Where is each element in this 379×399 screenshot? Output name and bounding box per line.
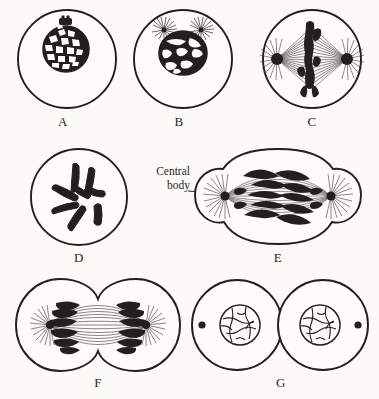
central-body-g-left [198,321,205,328]
panel-a-cell-diagram [14,5,120,113]
panel-f-cell-diagram [12,277,184,379]
centrosome-c-right [341,53,353,65]
central-body-e-right [327,192,336,201]
panel-letter-b: B [169,114,189,130]
nucleus-g-right [300,305,340,345]
mitosis-figure: A [0,0,379,399]
panel-b-cell-diagram [130,5,236,113]
central-body-annotation: Central body [128,164,190,193]
nucleus-b [159,31,207,75]
panel-letter-c: C [302,114,322,130]
central-body-e-left [221,192,230,201]
panel-letter-g: G [271,375,291,391]
panel-e-cell-diagram [183,145,373,255]
central-body-annotation-line2: body [128,178,190,192]
nucleus-g-left [220,305,260,345]
nucleus-a [43,25,89,72]
panel-c-cell-diagram [256,5,368,113]
panel-letter-e: E [268,250,288,266]
centrosome-c-left [271,53,283,65]
panel-letter-d: D [69,250,89,266]
panel-g-cell-diagram [190,277,370,379]
cell-membrane-d [31,149,127,245]
panel-letter-f: F [88,375,108,391]
central-body-annotation-line1: Central [128,164,190,178]
central-body-g-right [354,321,361,328]
panel-letter-a: A [53,114,73,130]
panel-d-cell-diagram [26,146,132,254]
